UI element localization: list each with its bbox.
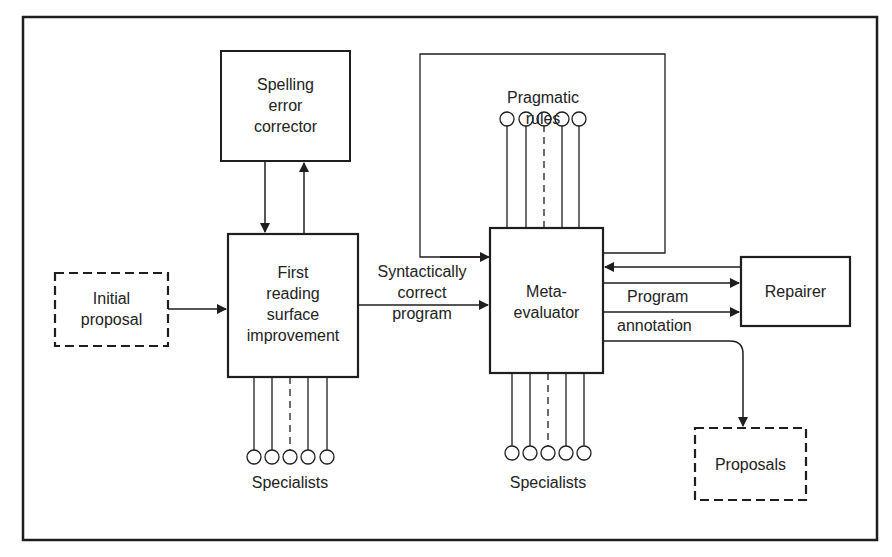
left-specialists-label: Specialists — [230, 472, 350, 493]
label-line: Pragmatic — [480, 87, 606, 108]
first-reading-label: First reading surface improvement — [228, 262, 358, 346]
spelling-corrector-label: Spelling error corrector — [221, 74, 350, 137]
pragmatic-rules-label: Pragmatic rules — [480, 87, 606, 129]
repairer-label: Repairer — [741, 281, 850, 302]
right-specialists-connectors — [505, 373, 591, 460]
label-line: evaluator — [490, 302, 603, 323]
label-line: program — [356, 303, 488, 324]
label-line: First — [228, 262, 358, 283]
label-line: rules — [480, 108, 606, 129]
label-line: surface — [228, 304, 358, 325]
label-line: correct — [356, 282, 488, 303]
initial-proposal-label: Initial proposal — [55, 288, 168, 330]
label-line: Meta- — [490, 281, 603, 302]
label-line: Spelling — [221, 74, 350, 95]
label-line: improvement — [228, 325, 358, 346]
label-line: corrector — [221, 116, 350, 137]
syntactic-edge-label: Syntactically correct program — [356, 261, 488, 324]
meta-evaluator-label: Meta- evaluator — [490, 281, 603, 323]
label-line: Initial — [55, 288, 168, 309]
left-specialists-connectors — [247, 377, 334, 464]
label-line: error — [221, 95, 350, 116]
right-specialists-label: Specialists — [488, 472, 608, 493]
label-line: Syntactically — [356, 261, 488, 282]
pragmatic-rules-box — [420, 54, 665, 257]
label-line: reading — [228, 283, 358, 304]
annotation-edge-label: annotation — [617, 315, 692, 336]
label-line: proposal — [55, 309, 168, 330]
program-edge-label: Program — [627, 286, 688, 307]
proposals-label: Proposals — [695, 454, 806, 475]
pragmatic-rules-connectors — [500, 112, 586, 228]
